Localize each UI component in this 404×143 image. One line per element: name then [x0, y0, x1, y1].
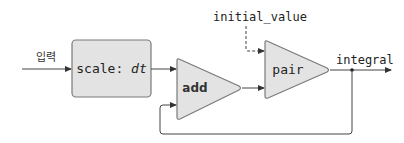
pair-block-label: pair [272, 62, 303, 77]
input-label: 입력 [36, 51, 56, 64]
initial-value-label: initial_value [213, 10, 307, 24]
add-block-label: add [182, 81, 207, 95]
pair-block[interactable]: pair [265, 41, 329, 99]
scale-block[interactable]: scale: dt [72, 40, 151, 97]
add-block[interactable]: add [177, 59, 241, 120]
initial-value-wire [246, 26, 264, 51]
svg-text:scale: dt: scale: dt [76, 61, 147, 76]
scale-block-param: dt [131, 61, 147, 76]
output-label: integral [336, 53, 394, 67]
scale-block-label: scale: [76, 61, 131, 76]
integrator-block-diagram: 입력 scale: dt add initial_value pair inte… [0, 0, 404, 143]
